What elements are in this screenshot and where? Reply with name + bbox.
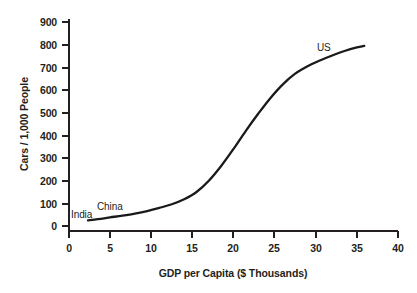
x-tick-label-35: 35 (351, 242, 362, 254)
y-axis-title: Cars / 1,000 People (18, 77, 30, 171)
x-tick-label-20: 20 (227, 242, 238, 254)
x-tick-label-40: 40 (392, 242, 403, 254)
x-tick-label-10: 10 (145, 242, 156, 254)
annotation-us: US (317, 42, 331, 53)
x-tick-label-15: 15 (186, 242, 197, 254)
x-tick-label-5: 5 (107, 242, 113, 254)
y-tick-label-0: 0 (0, 220, 57, 232)
chart-figure: 900 800 700 600 500 400 300 200 100 0 0 … (0, 0, 417, 293)
annotation-china: China (97, 201, 123, 212)
x-tick-label-25: 25 (268, 242, 279, 254)
data-series-line (88, 46, 364, 221)
x-axis-ticks (69, 231, 398, 238)
y-tick-label-800: 800 (0, 39, 57, 51)
x-tick-label-0: 0 (66, 242, 72, 254)
x-axis-title: GDP per Capita ($ Thousands) (159, 267, 308, 279)
annotation-india: India (71, 209, 92, 220)
x-tick-label-30: 30 (310, 242, 321, 254)
y-tick-label-700: 700 (0, 62, 57, 74)
y-tick-label-200: 200 (0, 175, 57, 187)
y-tick-label-100: 100 (0, 198, 57, 210)
y-tick-label-900: 900 (0, 16, 57, 28)
y-axis-ticks (62, 22, 69, 226)
